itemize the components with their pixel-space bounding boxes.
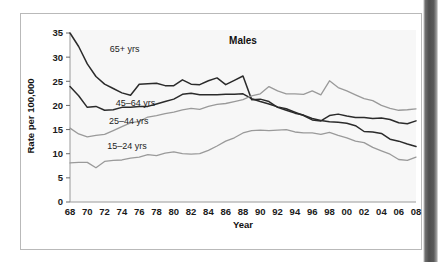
y-tick-label: 5 — [58, 172, 64, 183]
y-tick-label: 30 — [52, 52, 63, 63]
x-tick-label: 98 — [324, 206, 335, 217]
page-outer-edge — [438, 0, 444, 262]
x-tick-label: 84 — [203, 206, 214, 217]
x-tick-label: 86 — [220, 206, 231, 217]
x-tick-label: 74 — [117, 206, 128, 217]
x-tick-label: 78 — [151, 206, 162, 217]
line-chart: 0510152025303568707274767880828486889092… — [0, 0, 444, 262]
y-tick-label: 20 — [52, 100, 63, 111]
chart-title: Males — [229, 35, 257, 46]
x-tick-label: 04 — [376, 206, 387, 217]
series-label-15-24-yrs: 15–24 yrs — [107, 141, 147, 151]
series-label-45-64-yrs: 45–64 yrs — [116, 98, 156, 108]
x-tick-label: 88 — [238, 206, 249, 217]
x-tick-label: 02 — [359, 206, 370, 217]
x-tick-label: 94 — [290, 206, 301, 217]
y-tick-label: 0 — [58, 196, 63, 207]
chart-stage: 0510152025303568707274767880828486889092… — [0, 0, 444, 262]
x-tick-label: 90 — [255, 206, 266, 217]
x-tick-label: 96 — [307, 206, 318, 217]
y-tick-label: 15 — [52, 124, 63, 135]
series-label-65-yrs: 65+ yrs — [110, 44, 140, 54]
x-tick-label: 92 — [272, 206, 283, 217]
x-tick-label: 70 — [82, 206, 93, 217]
x-tick-label: 82 — [186, 206, 197, 217]
x-tick-label: 76 — [134, 206, 145, 217]
y-tick-label: 25 — [52, 76, 63, 87]
x-tick-label: 08 — [411, 206, 422, 217]
x-tick-label: 80 — [169, 206, 180, 217]
x-tick-label: 06 — [393, 206, 404, 217]
x-axis-title: Year — [233, 219, 253, 230]
page-gutter-shadow — [423, 0, 438, 262]
x-tick-label: 00 — [342, 206, 353, 217]
figure-root: 0510152025303568707274767880828486889092… — [0, 0, 444, 262]
series-label-25-44-yrs: 25–44 yrs — [109, 116, 149, 126]
x-tick-label: 68 — [65, 206, 76, 217]
y-tick-label: 10 — [52, 148, 63, 159]
y-tick-label: 35 — [52, 27, 63, 38]
y-axis-title: Rate per 100,000 — [25, 79, 36, 154]
x-tick-label: 72 — [99, 206, 110, 217]
